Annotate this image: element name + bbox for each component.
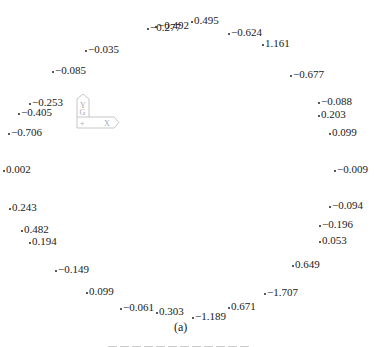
point-label: 1.161: [262, 37, 290, 49]
point-marker: [155, 26, 157, 28]
point-marker: [318, 115, 320, 117]
point-marker: [9, 208, 11, 210]
figure-canvas: Y G + X −0.277−0.4920.495−0.6241.161−0.0…: [0, 0, 376, 347]
point-label: 0.203: [318, 108, 346, 120]
point-marker: [329, 206, 331, 208]
point-marker: [85, 50, 87, 52]
point-marker: [29, 103, 31, 105]
point-label: 0.002: [3, 163, 31, 175]
point-value: −0.492: [158, 19, 189, 31]
point-label: 0.495: [191, 14, 219, 26]
point-value: 0.053: [322, 234, 347, 246]
point-marker: [319, 241, 321, 243]
point-label: 0.303: [156, 305, 184, 317]
point-label: −0.009: [334, 163, 368, 175]
point-label: −1.189: [192, 310, 226, 322]
point-marker: [86, 292, 88, 294]
point-marker: [228, 307, 230, 309]
point-value: −0.085: [55, 64, 86, 76]
point-marker: [147, 28, 149, 30]
point-marker: [18, 113, 20, 115]
point-value: −0.624: [231, 26, 262, 38]
clipped-caption: [108, 342, 278, 347]
point-label: 0.099: [86, 285, 114, 297]
point-marker: [21, 230, 23, 232]
point-label: −0.706: [8, 126, 42, 138]
point-marker: [329, 133, 331, 135]
point-value: 0.243: [12, 201, 37, 213]
point-value: 0.303: [159, 305, 184, 317]
point-label: 0.194: [29, 235, 57, 247]
point-marker: [319, 225, 321, 227]
point-label: −0.094: [329, 199, 363, 211]
point-marker: [55, 270, 57, 272]
point-value: −0.706: [11, 126, 42, 138]
point-label: 0.053: [319, 234, 347, 246]
point-marker: [52, 71, 54, 73]
point-label: −0.624: [228, 26, 262, 38]
point-marker: [318, 102, 320, 104]
point-label: 0.482: [21, 223, 49, 235]
point-marker: [262, 44, 264, 46]
point-value: −0.061: [123, 301, 154, 313]
point-marker: [3, 170, 5, 172]
coordinate-axis-icon: Y G + X: [76, 93, 120, 129]
point-value: −0.196: [322, 218, 353, 230]
point-label: 0.671: [228, 300, 256, 312]
svg-text:X: X: [104, 119, 110, 128]
point-value: −0.009: [337, 163, 368, 175]
point-label: −1.707: [264, 286, 298, 298]
point-value: −1.707: [267, 286, 298, 298]
point-marker: [192, 317, 194, 319]
point-value: −0.677: [293, 68, 324, 80]
point-value: 0.099: [89, 285, 114, 297]
point-value: 0.495: [194, 14, 219, 26]
point-marker: [228, 33, 230, 35]
point-marker: [120, 308, 122, 310]
point-value: 0.194: [32, 235, 57, 247]
point-marker: [191, 21, 193, 23]
svg-text:G: G: [80, 108, 86, 117]
point-label: 0.243: [9, 201, 37, 213]
point-label: −0.035: [85, 43, 119, 55]
point-value: 0.671: [231, 300, 256, 312]
point-value: 0.649: [295, 258, 320, 270]
point-label: −0.061: [120, 301, 154, 313]
point-marker: [264, 293, 266, 295]
point-label: −0.088: [318, 95, 352, 107]
point-label: −0.677: [290, 68, 324, 80]
point-label: −0.492: [155, 19, 189, 31]
point-marker: [29, 242, 31, 244]
point-value: −0.088: [321, 95, 352, 107]
point-label: −0.196: [319, 218, 353, 230]
point-label: −0.149: [55, 263, 89, 275]
point-marker: [334, 170, 336, 172]
point-marker: [156, 312, 158, 314]
point-label: −0.085: [52, 64, 86, 76]
point-value: 1.161: [265, 37, 290, 49]
point-value: 0.203: [321, 108, 346, 120]
point-label: −0.405: [18, 106, 52, 118]
point-value: −1.189: [195, 310, 226, 322]
point-marker: [8, 133, 10, 135]
point-marker: [290, 75, 292, 77]
point-value: 0.482: [24, 223, 49, 235]
point-marker: [292, 265, 294, 267]
point-value: 0.002: [6, 163, 31, 175]
subfigure-label: (a): [174, 320, 187, 335]
point-value: −0.094: [332, 199, 363, 211]
point-label: 0.649: [292, 258, 320, 270]
svg-text:+: +: [80, 119, 85, 128]
point-label: 0.099: [329, 126, 357, 138]
point-value: −0.035: [88, 43, 119, 55]
point-value: 0.099: [332, 126, 357, 138]
point-value: −0.149: [58, 263, 89, 275]
point-value: −0.405: [21, 106, 52, 118]
